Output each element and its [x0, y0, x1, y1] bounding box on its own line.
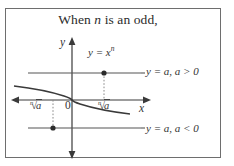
point-intersection-positive: [101, 70, 106, 75]
radical-index: n: [30, 99, 33, 106]
line-label-y-equals-a-positive: y = a, a > 0: [146, 65, 199, 77]
plot-canvas: [0, 0, 234, 166]
curve-label-lhs: y = x: [88, 46, 111, 58]
radical-index: n: [98, 99, 101, 106]
radical-label-left: n√a: [28, 100, 42, 111]
figure-container: When n is an odd, y x 0 y = x: [0, 0, 234, 166]
curve-label-exponent: n: [111, 44, 115, 53]
curve-label: y = xn: [88, 44, 114, 58]
x-axis-label: x: [139, 102, 144, 114]
y-axis-label: y: [60, 36, 65, 48]
point-intersection-negative: [50, 125, 55, 130]
radical-radicand: a: [104, 99, 110, 111]
radical-radicand: a: [36, 99, 42, 111]
origin-label: 0: [65, 99, 71, 111]
line-label-y-equals-a-negative: y = a, a < 0: [146, 122, 199, 134]
radical-label-right: n√a: [96, 100, 110, 111]
